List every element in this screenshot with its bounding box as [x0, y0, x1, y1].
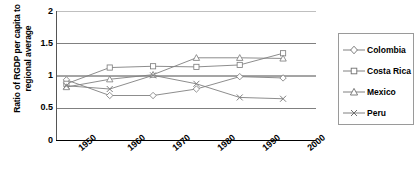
data-point-colombia-1970	[150, 92, 156, 98]
chart-figure: Ratio of RGDP per capita to regional ave…	[0, 0, 419, 175]
data-point-costa-rica-1960	[107, 65, 112, 70]
y-tick-label-1: 1	[27, 71, 53, 80]
legend-label-costa-rica: Costa Rica	[367, 66, 411, 76]
chart-legend: Colombia Costa Rica Mexico	[338, 33, 414, 125]
legend-item-mexico: Mexico	[343, 81, 413, 102]
series-line-peru	[66, 75, 283, 98]
y-tick-label-0: 0	[27, 136, 53, 145]
legend-item-colombia: Colombia	[343, 39, 413, 60]
legend-marker-square-icon	[343, 65, 365, 77]
data-point-colombia-1990	[237, 73, 243, 79]
y-axis-title-line2: regional average	[22, 26, 32, 92]
legend-label-mexico: Mexico	[367, 87, 396, 97]
legend-marker-diamond-icon	[343, 44, 365, 56]
y-tick-label-0-5: 0.5	[27, 103, 53, 112]
legend-label-peru: Peru	[367, 108, 386, 118]
legend-item-peru: Peru	[343, 102, 413, 123]
data-point-costa-rica-1990	[237, 62, 242, 67]
plot-canvas	[56, 11, 316, 141]
legend-item-costa-rica: Costa Rica	[343, 60, 413, 81]
data-point-costa-rica-1980	[194, 64, 199, 69]
plot-area	[56, 11, 316, 141]
y-axis-title-line1: Ratio of RGDP per capita to	[12, 4, 22, 113]
legend-marker-triangle-icon	[343, 86, 365, 98]
y-tick-label-2: 2	[27, 7, 53, 16]
y-tick-label-1-5: 1.5	[27, 39, 53, 48]
data-point-colombia-1980	[193, 86, 199, 92]
data-point-colombia-1960	[107, 92, 113, 98]
data-point-costa-rica-1970	[150, 64, 155, 69]
legend-marker-cross-icon	[343, 107, 365, 119]
legend-label-colombia: Colombia	[367, 45, 406, 55]
